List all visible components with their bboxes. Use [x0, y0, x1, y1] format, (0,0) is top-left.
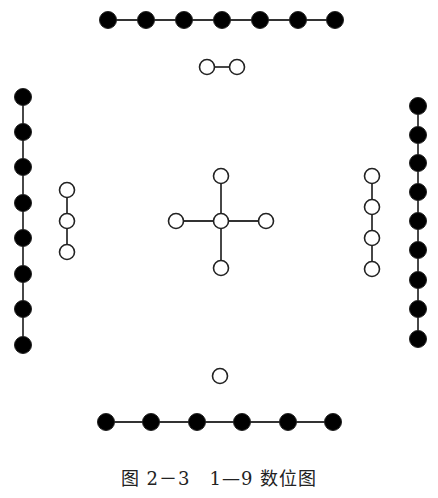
black-dot-icon	[410, 213, 427, 230]
black-dot-icon	[189, 414, 206, 431]
dot-group-center-white-5	[169, 169, 274, 276]
white-dot-icon	[214, 169, 229, 184]
black-dot-icon	[234, 414, 251, 431]
black-dot-icon	[410, 301, 427, 318]
black-dot-icon	[143, 414, 160, 431]
dot-group-right-black-9	[410, 98, 427, 348]
black-dot-icon	[410, 272, 427, 289]
black-dot-icon	[327, 12, 344, 29]
black-dot-icon	[410, 98, 427, 115]
black-dot-icon	[290, 12, 307, 29]
dot-group-left-black-8	[15, 89, 32, 354]
white-dot-icon	[169, 214, 184, 229]
white-dot-icon	[60, 183, 75, 198]
black-dot-icon	[15, 337, 32, 354]
figure-caption: 图 2－3 1—9 数位图	[0, 464, 438, 490]
dot-group-bottom-black-6	[98, 414, 342, 431]
dot-group-right-white-4	[365, 169, 380, 277]
black-dot-icon	[15, 124, 32, 141]
black-dot-icon	[138, 12, 155, 29]
white-dot-icon	[365, 262, 380, 277]
black-dot-icon	[280, 414, 297, 431]
black-dot-icon	[15, 230, 32, 247]
white-dot-icon	[365, 231, 380, 246]
black-dot-icon	[100, 12, 117, 29]
black-dot-icon	[410, 242, 427, 259]
black-dot-icon	[325, 414, 342, 431]
white-dot-icon	[213, 369, 228, 384]
black-dot-icon	[410, 127, 427, 144]
dot-group-bottom-white-1	[213, 369, 228, 384]
black-dot-icon	[15, 159, 32, 176]
white-dot-icon	[365, 200, 380, 215]
black-dot-icon	[252, 12, 269, 29]
dot-group-top-black-7	[100, 12, 344, 29]
dot-group-left-white-3	[60, 183, 75, 260]
white-dot-icon	[365, 169, 380, 184]
black-dot-icon	[410, 155, 427, 172]
black-dot-icon	[15, 301, 32, 318]
black-dot-icon	[15, 266, 32, 283]
black-dot-icon	[98, 414, 115, 431]
white-dot-icon	[214, 261, 229, 276]
black-dot-icon	[176, 12, 193, 29]
white-dot-icon	[230, 60, 245, 75]
black-dot-icon	[410, 331, 427, 348]
black-dot-icon	[15, 89, 32, 106]
white-dot-icon	[259, 214, 274, 229]
white-dot-icon	[214, 214, 229, 229]
black-dot-icon	[15, 195, 32, 212]
dot-group-top-white-2	[200, 60, 245, 75]
white-dot-icon	[200, 60, 215, 75]
white-dot-icon	[60, 214, 75, 229]
black-dot-icon	[214, 12, 231, 29]
white-dot-icon	[60, 245, 75, 260]
number-position-diagram	[0, 0, 438, 460]
black-dot-icon	[410, 184, 427, 201]
